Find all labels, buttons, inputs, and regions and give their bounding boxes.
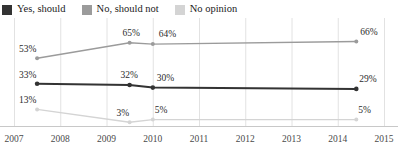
series-line-yes-should <box>37 84 356 89</box>
x-axis-tick-2009: 2009 <box>97 135 116 145</box>
legend-label-no-opinion: No opinion <box>190 4 238 15</box>
data-label-no-should-not-1: 65% <box>123 29 140 39</box>
data-label-no-should-not-0: 53% <box>19 45 36 55</box>
x-axis-tick-labels: 200720082009201020112012201320142015 <box>0 135 398 149</box>
data-point-yes-should-2 <box>151 85 156 90</box>
legend-label-no-should-not: No, should not <box>97 4 159 15</box>
data-label-yes-should-0: 33% <box>19 71 36 81</box>
legend-label-yes-should: Yes, should <box>17 4 66 15</box>
series-line-no-opinion <box>37 109 356 122</box>
data-label-yes-should-3: 29% <box>359 75 376 85</box>
x-axis-tick-2012: 2012 <box>236 135 255 145</box>
legend-swatch-no-should-not <box>82 5 92 15</box>
legend-swatch-yes-should <box>2 5 12 15</box>
data-label-yes-should-2: 30% <box>157 74 174 84</box>
data-point-yes-should-1 <box>127 83 132 88</box>
data-point-yes-should-0 <box>35 82 40 87</box>
series-line-no-should-not <box>37 42 356 59</box>
x-axis-tick-2015: 2015 <box>375 135 394 145</box>
x-axis-tick-2011: 2011 <box>190 135 209 145</box>
data-label-no-opinion-0: 13% <box>19 96 36 106</box>
data-label-no-opinion-3: 5% <box>358 106 371 116</box>
data-point-no-opinion-3 <box>354 118 358 122</box>
legend-swatch-no-opinion <box>175 5 185 15</box>
data-point-no-should-not-0 <box>35 56 39 60</box>
legend-item-no-opinion: No opinion <box>175 4 238 15</box>
x-axis-tick-2007: 2007 <box>5 135 24 145</box>
data-point-no-should-not-1 <box>128 41 132 45</box>
data-point-no-opinion-0 <box>35 107 39 111</box>
legend-item-no-should-not: No, should not <box>82 4 159 15</box>
data-point-no-opinion-1 <box>128 120 132 124</box>
x-axis-tick-2014: 2014 <box>328 135 347 145</box>
chart-legend: Yes, should No, should not No opinion <box>2 3 253 16</box>
data-label-yes-should-1: 32% <box>121 71 138 81</box>
data-label-no-should-not-2: 64% <box>159 30 176 40</box>
data-label-no-opinion-2: 5% <box>155 106 168 116</box>
plot-area <box>0 18 398 151</box>
x-axis-tick-2010: 2010 <box>143 135 162 145</box>
data-point-no-should-not-3 <box>354 40 358 44</box>
plot-svg <box>0 18 398 151</box>
data-point-yes-should-3 <box>354 87 359 92</box>
line-chart: Yes, should No, should not No opinion 53… <box>0 0 398 151</box>
data-label-no-should-not-3: 66% <box>360 28 377 38</box>
x-axis-tick-2008: 2008 <box>51 135 70 145</box>
data-label-no-opinion-1: 3% <box>117 109 130 119</box>
legend-item-yes-should: Yes, should <box>2 4 66 15</box>
x-axis-tick-2013: 2013 <box>282 135 301 145</box>
data-point-no-should-not-2 <box>151 42 155 46</box>
data-point-no-opinion-2 <box>151 118 155 122</box>
